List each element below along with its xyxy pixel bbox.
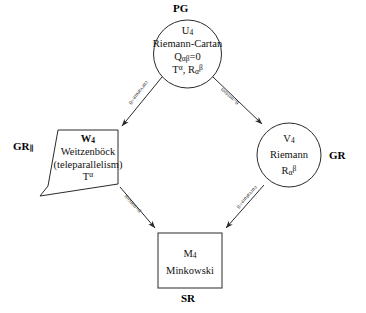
node-w4-outer-label-sub: ∥ — [30, 144, 34, 153]
spacetime-geometry-diagram: PG U4 Riemann-Cartan Qαβ=0 Tα, Rαβ GR∥ W… — [0, 0, 366, 313]
node-m4-outer-label: SR — [181, 292, 195, 304]
node-m4-shape[interactable] — [158, 233, 222, 288]
node-w4-outer-label: GR∥ — [13, 140, 34, 153]
node-w4-shape[interactable] — [40, 130, 118, 196]
edge-v4-to-m4-arrow — [226, 185, 264, 228]
node-m4-outer-label-text: SR — [181, 292, 195, 304]
node-w4-outer-label-text: GR — [13, 140, 30, 152]
node-u4-shape[interactable] — [154, 20, 222, 88]
node-u4-outer-label-text: PG — [173, 2, 188, 14]
diagram-shapes-layer — [0, 0, 366, 313]
node-v4-shape[interactable] — [257, 123, 321, 187]
node-v4-outer-label: GR — [329, 149, 346, 161]
node-v4-outer-label-text: GR — [329, 149, 346, 161]
node-u4-outer-label: PG — [173, 2, 188, 14]
